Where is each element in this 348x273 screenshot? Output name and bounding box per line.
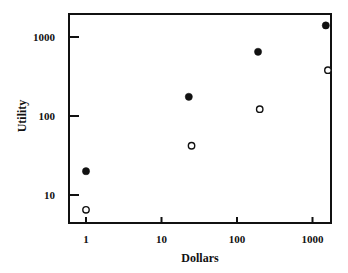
data-points [82, 22, 331, 213]
open-circle-marker [188, 143, 194, 149]
filled-circle-marker [82, 168, 89, 175]
open-circle-marker [257, 106, 263, 112]
y-axis-label: Utility [15, 100, 29, 133]
open-circle-marker [325, 67, 331, 73]
y-axis-ticks: 101001000 [33, 31, 79, 201]
plot-border [69, 14, 331, 223]
x-tick-label: 1000 [302, 233, 325, 245]
y-tick-label: 10 [44, 189, 56, 201]
y-tick-label: 100 [39, 110, 56, 122]
x-tick-label: 1 [83, 233, 89, 245]
plot-frame [69, 14, 331, 223]
open-circle-marker [83, 207, 89, 213]
x-axis-ticks: 1101001000 [83, 217, 324, 245]
series-open-circle [83, 67, 331, 213]
y-tick-label: 1000 [33, 31, 56, 43]
filled-circle-marker [322, 22, 329, 29]
filled-circle-marker [254, 48, 261, 55]
series-filled-circle [82, 22, 329, 175]
filled-circle-marker [185, 93, 192, 100]
x-tick-label: 10 [156, 233, 168, 245]
x-tick-label: 100 [229, 233, 246, 245]
x-axis-label: Dollars [181, 251, 219, 265]
scatter-chart: 1101001000 101001000 Dollars Utility [0, 0, 348, 273]
